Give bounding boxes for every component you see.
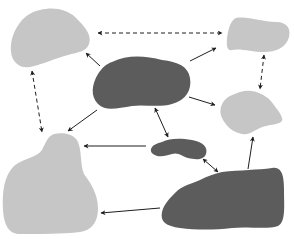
edge-bottom-right-mid-right: [248, 137, 253, 169]
edge-top-right-mid-right: [260, 55, 264, 89]
edge-center-top-left: [86, 53, 100, 66]
edge-small-center-bottom-right: [203, 159, 218, 172]
edge-center-bottom-left: [68, 110, 97, 131]
node-small-center: [151, 139, 207, 160]
node-bottom-right: [162, 168, 285, 230]
node-mid-right: [220, 91, 282, 135]
diagram-canvas: [0, 0, 294, 239]
edge-top-left-bottom-left: [32, 71, 42, 132]
edge-center-top-right: [190, 48, 216, 61]
diagram-svg: [0, 0, 294, 239]
edge-center-mid-right: [189, 97, 215, 105]
node-top-right: [227, 18, 290, 52]
node-center: [93, 57, 191, 109]
node-bottom-left: [3, 133, 98, 234]
edge-bottom-right-bottom-left: [101, 208, 160, 213]
edge-center-small-center: [155, 108, 168, 137]
node-top-left: [11, 8, 90, 67]
